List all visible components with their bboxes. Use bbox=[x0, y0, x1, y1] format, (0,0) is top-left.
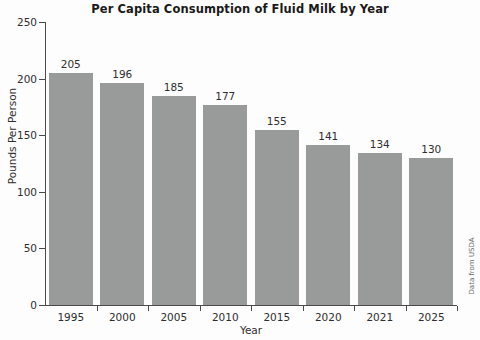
x-axis-tick-label: 2000 bbox=[97, 311, 149, 323]
plot-area bbox=[45, 22, 457, 305]
source-note: Data from USDA bbox=[468, 226, 476, 306]
chart-title: Per Capita Consumption of Fluid Milk by … bbox=[0, 2, 480, 16]
x-axis-tick bbox=[457, 306, 458, 311]
y-axis-tick-label: 0 bbox=[3, 299, 37, 311]
bar[interactable] bbox=[152, 96, 196, 305]
bar[interactable] bbox=[255, 130, 299, 305]
bar-value-label: 155 bbox=[255, 115, 299, 127]
x-axis-title: Year bbox=[45, 324, 457, 336]
y-axis-tick-label: 100 bbox=[3, 186, 37, 198]
y-axis-tick-label: 250 bbox=[3, 16, 37, 28]
y-axis-tick bbox=[39, 79, 45, 80]
bar-value-label: 141 bbox=[306, 130, 350, 142]
x-axis-tick-label: 2010 bbox=[200, 311, 252, 323]
y-axis-tick-label: 150 bbox=[3, 129, 37, 141]
y-axis-tick-label: 50 bbox=[3, 242, 37, 254]
x-axis-tick-label: 2015 bbox=[251, 311, 303, 323]
x-axis-tick-label: 2020 bbox=[303, 311, 355, 323]
y-axis-tick bbox=[39, 192, 45, 193]
bar[interactable] bbox=[100, 83, 144, 305]
y-axis-tick bbox=[39, 248, 45, 249]
y-axis-tick bbox=[39, 22, 45, 23]
bar-value-label: 177 bbox=[203, 90, 247, 102]
y-axis-tick-label: 200 bbox=[3, 73, 37, 85]
bar[interactable] bbox=[358, 153, 402, 305]
y-axis-tick bbox=[39, 135, 45, 136]
x-axis-tick-label: 2025 bbox=[406, 311, 458, 323]
bar[interactable] bbox=[49, 73, 93, 305]
bar-value-label: 196 bbox=[100, 68, 144, 80]
y-axis-tick-labels: 050100150200250 bbox=[0, 0, 37, 340]
bar-chart: Per Capita Consumption of Fluid Milk by … bbox=[0, 0, 480, 340]
bar-value-label: 205 bbox=[49, 58, 93, 70]
y-axis-tick bbox=[39, 305, 45, 306]
x-axis-tick-label: 1995 bbox=[45, 311, 97, 323]
bar-value-label: 134 bbox=[358, 138, 402, 150]
x-axis-tick-label: 2005 bbox=[148, 311, 200, 323]
bar-value-label: 185 bbox=[152, 81, 196, 93]
bar[interactable] bbox=[306, 145, 350, 305]
bar[interactable] bbox=[409, 158, 453, 305]
x-axis-tick-label: 2021 bbox=[354, 311, 406, 323]
bar-value-label: 130 bbox=[409, 143, 453, 155]
bar[interactable] bbox=[203, 105, 247, 305]
